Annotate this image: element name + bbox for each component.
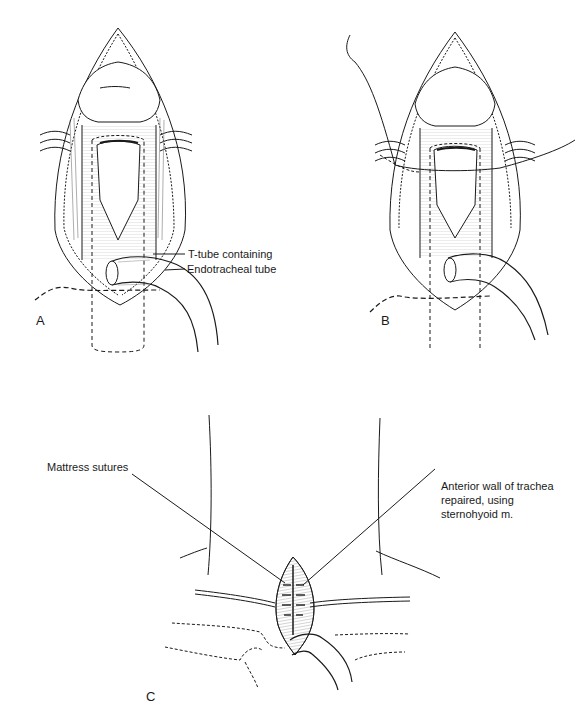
label-anterior-wall-line3: sternohyoid m.	[441, 507, 513, 521]
panel-c-drawing	[132, 415, 440, 690]
label-mattress-sutures: Mattress sutures	[47, 460, 128, 474]
panel-b-drawing	[347, 32, 575, 350]
panel-a-drawing	[35, 28, 218, 352]
panel-letter-c: C	[146, 689, 155, 704]
panel-letter-b: B	[381, 313, 390, 328]
label-t-tube: T-tube containing	[188, 247, 272, 261]
label-anterior-wall-line2: repaired, using	[441, 493, 514, 507]
surgical-illustration	[0, 0, 581, 725]
label-endotracheal-tube: Endotracheal tube	[187, 262, 276, 276]
panel-letter-a: A	[36, 313, 45, 328]
label-anterior-wall-line1: Anterior wall of trachea	[441, 479, 554, 493]
